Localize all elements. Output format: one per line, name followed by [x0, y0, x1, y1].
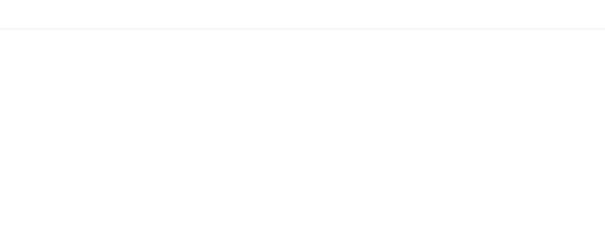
diagram-canvas — [0, 0, 605, 228]
